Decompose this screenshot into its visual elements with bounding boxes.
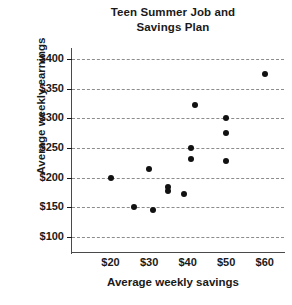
data-point	[188, 156, 194, 162]
y-tick-label: $100	[20, 231, 64, 242]
chart-title-line-1: Teen Summer Job and	[62, 5, 284, 20]
x-axis-line	[71, 252, 285, 253]
data-point	[181, 191, 187, 197]
data-point	[192, 102, 198, 108]
gridline-y	[72, 178, 284, 179]
data-point	[165, 188, 171, 194]
gridline-y	[72, 59, 284, 60]
gridline-y	[72, 89, 284, 90]
chart-title-line-2: Savings Plan	[62, 20, 284, 35]
gridline-y	[72, 237, 284, 238]
data-point	[223, 115, 229, 121]
data-point	[188, 145, 194, 151]
data-point	[150, 207, 156, 213]
chart-title: Teen Summer Job and Savings Plan	[62, 5, 284, 35]
data-point	[262, 71, 268, 77]
x-tick-label: $60	[242, 256, 288, 268]
data-point	[131, 204, 137, 210]
gridline-y	[72, 148, 284, 149]
data-point	[146, 166, 152, 172]
x-axis-title: Average weekly savings	[62, 276, 284, 288]
gridline-y	[72, 118, 284, 119]
y-axis-title: Average weekly earnings	[35, 11, 47, 201]
plot-area	[72, 52, 284, 252]
data-point	[223, 158, 229, 164]
y-tick-label: $150	[20, 201, 64, 212]
data-point	[223, 130, 229, 136]
gridline-y	[72, 207, 284, 208]
data-point	[108, 175, 114, 181]
scatter-chart: Teen Summer Job and Savings Plan $100$15…	[0, 0, 292, 305]
